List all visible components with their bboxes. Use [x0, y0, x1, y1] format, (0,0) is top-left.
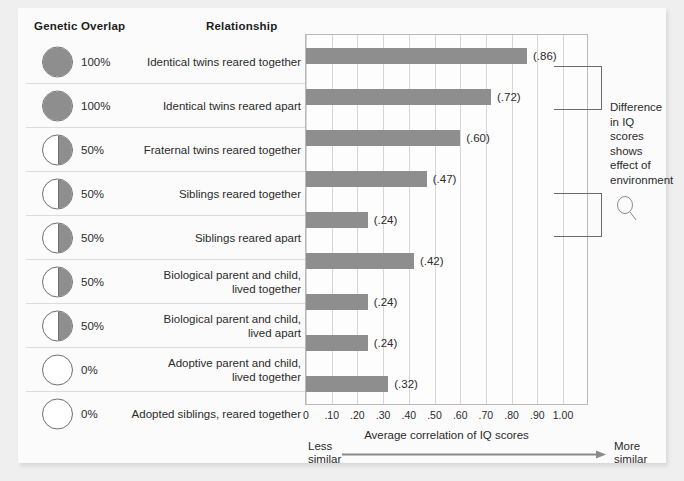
- x-axis-tick-label: .60: [453, 409, 468, 421]
- bar-value-label: (.24): [374, 214, 398, 226]
- genetic-overlap-percent: 50%: [81, 144, 104, 156]
- bar: [306, 294, 368, 310]
- genetic-overlap-pie-icon: [42, 354, 73, 385]
- bar-value-label: (.47): [433, 173, 457, 185]
- table-row: 100%Identical twins reared together: [26, 40, 309, 84]
- x-axis-tick-label: .30: [376, 409, 391, 421]
- more-similar-label: More similar: [614, 440, 647, 466]
- relationship-label: Fraternal twins reared together: [144, 143, 301, 157]
- bar: [306, 335, 368, 351]
- genetic-overlap-pie-icon: [42, 310, 73, 341]
- bar-value-label: (.86): [533, 50, 557, 62]
- genetic-overlap-pie-icon: [42, 399, 73, 430]
- genetic-overlap-percent: 50%: [81, 320, 104, 332]
- x-axis-tick-label: .10: [324, 409, 339, 421]
- bar-value-label: (.32): [394, 378, 418, 390]
- x-axis-tick-label: .80: [504, 409, 519, 421]
- bracket-twins-together-apart: [554, 66, 602, 110]
- genetic-overlap-percent: 100%: [81, 100, 110, 112]
- x-axis-tick-label: .50: [427, 409, 442, 421]
- bar-value-label: (.42): [420, 255, 444, 267]
- bar-value-label: (.24): [374, 296, 398, 308]
- relationship-label: Identical twins reared together: [147, 55, 301, 69]
- table-row: 0%Adoptive parent and child, lived toget…: [26, 348, 309, 392]
- genetic-overlap-pie-icon: [42, 266, 73, 297]
- bar-value-label: (.72): [497, 91, 521, 103]
- genetic-overlap-pie-icon: [42, 46, 73, 77]
- genetic-overlap-percent: 100%: [81, 56, 110, 68]
- x-axis-tick-label: .20: [350, 409, 365, 421]
- x-axis-tick-label: 0: [303, 409, 309, 421]
- table-row: 50%Siblings reared together: [26, 172, 309, 216]
- relationship-table: 100%Identical twins reared together100%I…: [26, 40, 309, 436]
- relationship-label: Siblings reared apart: [195, 231, 301, 245]
- x-axis-tick-label: .40: [401, 409, 416, 421]
- table-row: 50%Biological parent and child, lived ap…: [26, 304, 309, 348]
- bar: [306, 212, 368, 228]
- bar-chart-plot-area: (.86)(.72)(.60)(.47)(.24)(.42)(.24)(.24)…: [305, 34, 588, 405]
- genetic-overlap-pie-icon: [42, 178, 73, 209]
- table-row: 100%Identical twins reared apart: [26, 84, 309, 128]
- genetic-overlap-percent: 50%: [81, 232, 104, 244]
- genetic-overlap-percent: 50%: [81, 276, 104, 288]
- magnifier-icon: [616, 196, 638, 222]
- relationship-label: Biological parent and child, lived toget…: [164, 268, 301, 296]
- bracket-siblings-together-apart: [554, 193, 602, 237]
- x-axis-tick-label: .70: [479, 409, 494, 421]
- genetic-overlap-percent: 50%: [81, 188, 104, 200]
- column-header-relationship: Relationship: [206, 20, 277, 32]
- figure-card: Genetic Overlap Relationship 100%Identic…: [18, 8, 666, 463]
- bar: [306, 253, 414, 269]
- table-row: 50%Fraternal twins reared together: [26, 128, 309, 172]
- relationship-label: Identical twins reared apart: [163, 99, 301, 113]
- bar-value-label: (.60): [466, 132, 490, 144]
- bar: [306, 171, 427, 187]
- genetic-overlap-pie-icon: [42, 222, 73, 253]
- bar: [306, 89, 491, 105]
- column-header-genetic-overlap: Genetic Overlap: [34, 20, 125, 32]
- bar: [306, 130, 460, 146]
- less-similar-label: Less similar: [308, 440, 341, 466]
- environment-effect-annotation: Difference in IQ scores shows effect of …: [610, 100, 684, 187]
- bar: [306, 376, 388, 392]
- x-axis-tick-label: .90: [530, 409, 545, 421]
- table-row: 50%Siblings reared apart: [26, 216, 309, 260]
- bar: [306, 48, 527, 64]
- bar-value-label: (.24): [374, 337, 398, 349]
- similarity-arrow-icon: [342, 450, 606, 459]
- relationship-label: Siblings reared together: [179, 187, 301, 201]
- x-axis-tick-label: 1.00: [553, 409, 573, 421]
- genetic-overlap-percent: 0%: [81, 364, 98, 376]
- genetic-overlap-percent: 0%: [81, 408, 98, 420]
- genetic-overlap-pie-icon: [42, 90, 73, 121]
- relationship-label: Adoptive parent and child, lived togethe…: [168, 356, 301, 384]
- gridline: [537, 35, 538, 404]
- x-axis-title: Average correlation of IQ scores: [305, 429, 588, 441]
- table-row: 50%Biological parent and child, lived to…: [26, 260, 309, 304]
- relationship-label: Biological parent and child, lived apart: [164, 312, 301, 340]
- table-row: 0%Adopted siblings, reared together: [26, 392, 309, 436]
- genetic-overlap-pie-icon: [42, 134, 73, 165]
- relationship-label: Adopted siblings, reared together: [132, 407, 301, 421]
